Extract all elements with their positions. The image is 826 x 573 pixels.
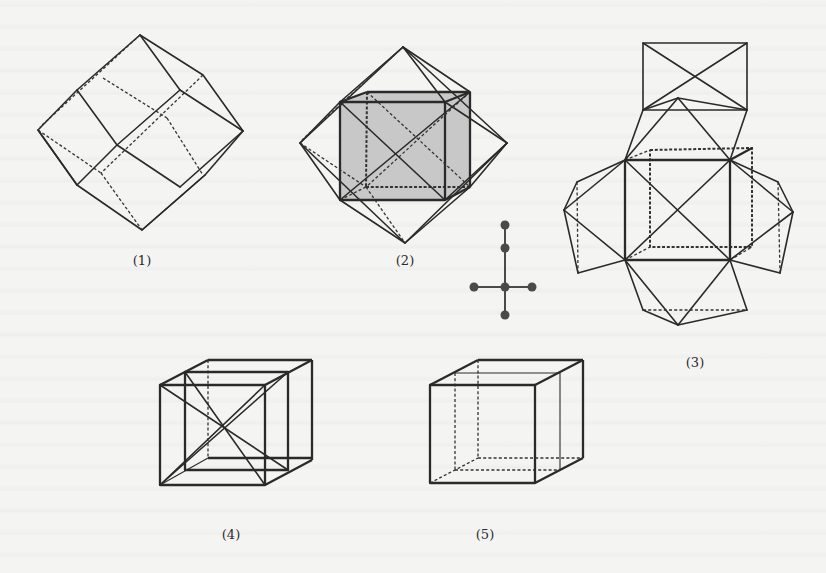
figure-1-rhombic-dodecahedron	[38, 35, 243, 230]
figure-5-label: (5)	[476, 527, 494, 542]
figure-2-label: (2)	[396, 253, 414, 268]
figure-3-label: (3)	[686, 355, 704, 370]
figure-4-nested-cubes-diagonals	[160, 360, 312, 485]
figure-1-label: (1)	[133, 253, 151, 268]
figure-3-augmented-cube	[564, 43, 793, 325]
figure-2-octahedron-cube	[300, 47, 507, 243]
figure-4-label: (4)	[222, 527, 240, 542]
figure-5-nested-cubes	[430, 360, 583, 483]
figures-canvas	[0, 0, 826, 573]
cross-graph-icon	[470, 221, 537, 320]
